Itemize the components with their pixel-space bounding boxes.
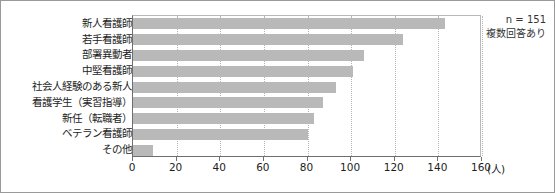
gridline xyxy=(482,16,483,156)
category-label: 新人看護師 xyxy=(5,17,132,29)
bar xyxy=(133,66,353,77)
category-label: 新任（転職者） xyxy=(5,112,132,124)
category-label: 若手看護師 xyxy=(5,33,132,45)
bar xyxy=(133,129,308,140)
bar xyxy=(133,18,445,29)
category-label: ベテラン看護師 xyxy=(5,127,132,139)
category-axis-labels: 新人看護師若手看護師部署異動者中堅看護師社会人経験のある新人看護学生（実習指導）… xyxy=(5,15,132,157)
axis-tick-label: 40 xyxy=(213,161,226,173)
axis-tick-label: 80 xyxy=(300,161,313,173)
category-label: 看護学生（実習指導） xyxy=(5,96,132,108)
bar xyxy=(133,145,153,156)
category-label: 中堅看護師 xyxy=(5,64,132,76)
bar xyxy=(133,82,336,93)
category-label: 部署異動者 xyxy=(5,48,132,60)
axis-tick-label: 100 xyxy=(340,161,360,173)
category-label: 社会人経験のある新人 xyxy=(5,80,132,92)
plot-area xyxy=(132,15,481,157)
bar xyxy=(133,97,323,108)
bar xyxy=(133,50,364,61)
axis-tick-label: 0 xyxy=(129,161,136,173)
bar-chart-figure: n = 151 複数回答あり 新人看護師若手看護師部署異動者中堅看護師社会人経験… xyxy=(0,0,555,193)
bar xyxy=(133,113,314,124)
axis-tick-label: 60 xyxy=(256,161,269,173)
category-label: その他 xyxy=(5,143,132,155)
axis-unit-label: (人) xyxy=(487,161,505,176)
chart-area: 新人看護師若手看護師部署異動者中堅看護師社会人経験のある新人看護学生（実習指導）… xyxy=(1,1,555,193)
axis-tick-label: 120 xyxy=(384,161,404,173)
gridline xyxy=(438,16,439,156)
axis-tick-label: 140 xyxy=(427,161,447,173)
bar xyxy=(133,34,403,45)
axis-tick-label: 20 xyxy=(169,161,182,173)
